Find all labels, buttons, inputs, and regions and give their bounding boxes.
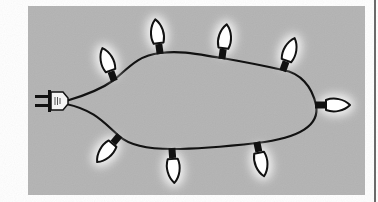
edge-divider-line (374, 0, 376, 202)
lights-svg (0, 0, 378, 202)
holiday-lights-illustration (0, 0, 378, 202)
